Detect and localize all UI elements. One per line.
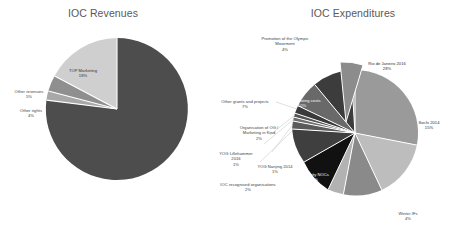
pie-label-rio: Rio de Janeiro 2016 28% <box>362 61 412 72</box>
pie-label-usopc: USOPC 8% <box>332 198 360 209</box>
pie-label-other-grants: Other grants and projects 7% <box>212 99 278 110</box>
pie-label-other-revenues: Other revenues 5% <box>4 89 54 100</box>
chart-title-revenues: IOC Revenues <box>0 7 216 19</box>
pie-svg-revenues <box>44 36 190 182</box>
pie-label-summer-ifs: Summer IFs 10% <box>394 176 428 187</box>
pie-label-yog-nanjing: YOG Nanjing 2014 1% <box>250 164 300 175</box>
pie-label-organisation-og: Organisation of OG / Marketing in Kind 2… <box>228 125 290 141</box>
pie-label-other-rights: Other rights 4% <box>8 108 54 119</box>
chart-panel-revenues: IOC Revenues TOP Marketing 18% TV Rights… <box>0 0 226 230</box>
chart-panel-expenditures: IOC Expenditures <box>226 0 452 230</box>
pie-label-tv-rights: TV Rights 73% <box>150 164 192 175</box>
chart-title-expenditures: IOC Expenditures <box>240 7 452 19</box>
pie-label-winter-ifs: Winter IFs 4% <box>390 211 426 222</box>
pie-label-solidarity-nocs: Solidarity NOCs 11% <box>294 172 334 183</box>
pie-label-operating-costs: IOC operating costs 10% <box>278 98 326 109</box>
pie-label-sochi: Sochi 2014 15% <box>412 120 446 131</box>
pie-chart-revenues <box>44 36 190 182</box>
pie-label-top-marketing: TOP Marketing 18% <box>60 68 106 79</box>
pie-label-promotion: Promotion of the Olympic Movement 4% <box>250 36 320 52</box>
pie-label-recognised-orgs: IOC recognised organisations 2% <box>210 182 286 193</box>
